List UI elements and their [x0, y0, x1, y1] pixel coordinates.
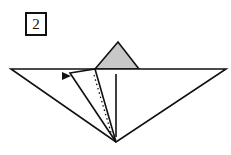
main-paper-triangle	[11, 69, 226, 142]
fold-diagram-svg	[0, 0, 231, 155]
origami-diagram: 2	[0, 0, 231, 155]
top-flap-triangle	[95, 42, 139, 69]
